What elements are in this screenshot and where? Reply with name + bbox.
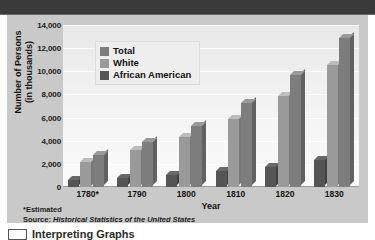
chart-panel: Number of Persons (in thousands) 02,0004… <box>7 15 368 223</box>
bar-face <box>216 171 227 187</box>
bar-african-american <box>166 175 177 187</box>
bar-african-american <box>314 160 325 187</box>
title-band-text <box>0 0 375 14</box>
bar-face <box>339 38 350 187</box>
bar-african-american <box>68 180 79 187</box>
bar-face <box>327 65 338 187</box>
bar-african-american <box>265 167 276 188</box>
y-axis-tick-label: 12,000 <box>37 44 61 53</box>
y-axis-tick-label: 6,000 <box>41 113 61 122</box>
bar-face <box>241 103 252 187</box>
bar-total <box>142 142 153 187</box>
bar-face <box>265 167 276 188</box>
chart-notes: *Estimated Source: Historical Statistics… <box>23 205 353 224</box>
graph-thumbnail-icon <box>8 229 27 240</box>
legend-label-african-american: African American <box>113 69 191 81</box>
bar-total <box>191 126 202 187</box>
y-axis-tick-label: 2,000 <box>41 159 61 168</box>
x-axis-tick-label: 1810 <box>226 189 245 199</box>
bar-white <box>278 96 289 187</box>
bar-side <box>202 120 206 185</box>
bar-face <box>117 178 128 187</box>
bar-face <box>68 180 79 187</box>
screenshot-root: Number of Persons (in thousands) 02,0004… <box>0 0 375 240</box>
legend-label-total: Total <box>113 45 135 57</box>
bar-face <box>93 155 104 187</box>
bar-total <box>93 155 104 187</box>
legend-swatch-african-american <box>100 71 109 80</box>
bar-african-american <box>216 171 227 187</box>
x-axis-tick-label: 1830 <box>325 189 344 199</box>
y-axis-tick-label: 0 <box>57 183 61 192</box>
title-band <box>0 0 375 15</box>
bar-side <box>252 97 256 185</box>
legend-swatch-total <box>100 47 109 56</box>
bar-face <box>314 160 325 187</box>
x-axis-tick-label: 1820 <box>276 189 295 199</box>
bar-side <box>301 69 305 185</box>
bar-face <box>278 96 289 187</box>
bar-face <box>80 162 91 188</box>
bar-white <box>80 162 91 188</box>
legend-item-white: White <box>100 57 191 69</box>
note-source-title: Historical Statistics of the United Stat… <box>53 215 195 224</box>
bar-total <box>241 103 252 187</box>
caption-text: Interpreting Graphs <box>32 228 135 240</box>
bar-group <box>265 25 301 187</box>
note-source-prefix: Source: <box>23 215 53 224</box>
bar-white <box>327 65 338 187</box>
bar-face <box>179 137 190 187</box>
chart-legend: Total White African American <box>95 41 200 85</box>
y-axis-tick-label: 8,000 <box>41 90 61 99</box>
bar-group <box>216 25 252 187</box>
bar-face <box>290 75 301 187</box>
bar-total <box>290 75 301 187</box>
y-axis-tick-label: 4,000 <box>41 136 61 145</box>
x-axis-tick-label: 1790 <box>128 189 147 199</box>
bar-side <box>350 32 354 185</box>
bar-face <box>130 150 141 187</box>
legend-label-white: White <box>113 57 139 69</box>
bar-face <box>228 119 239 187</box>
y-axis-tick-label: 14,000 <box>37 21 61 30</box>
bar-side <box>153 136 157 185</box>
y-axis-labels: 02,0004,0006,0008,00010,00012,00014,000 <box>17 25 61 187</box>
bar-face <box>142 142 153 187</box>
bar-group <box>314 25 350 187</box>
bar-white <box>130 150 141 187</box>
x-axis-tick-label: 1800 <box>177 189 196 199</box>
legend-item-total: Total <box>100 45 191 57</box>
bar-face <box>191 126 202 187</box>
note-estimated: *Estimated <box>23 205 353 215</box>
legend-item-african-american: African American <box>100 69 191 81</box>
bar-white <box>179 137 190 187</box>
note-source: Source: Historical Statistics of the Uni… <box>23 215 353 225</box>
bar-total <box>339 38 350 187</box>
x-axis-tick-label: 1780* <box>77 189 99 199</box>
bar-white <box>228 119 239 187</box>
legend-swatch-white <box>100 59 109 68</box>
figure-caption: Interpreting Graphs <box>8 228 368 240</box>
bar-face <box>166 175 177 187</box>
y-axis-tick-label: 10,000 <box>37 67 61 76</box>
bar-african-american <box>117 178 128 187</box>
